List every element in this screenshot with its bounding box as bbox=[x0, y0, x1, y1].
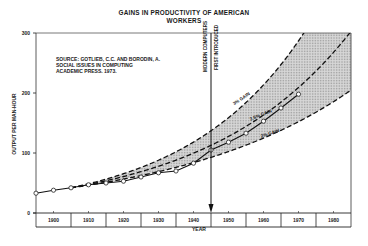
arrow-label-line-2: FIRST INTRODUCED bbox=[214, 25, 219, 70]
computers-arrow bbox=[209, 33, 214, 213]
svg-text:1960: 1960 bbox=[258, 217, 269, 223]
source-line-3: ACADEMIC PRESS. 1973. bbox=[56, 68, 160, 74]
svg-text:1970: 1970 bbox=[293, 217, 304, 223]
svg-text:0: 0 bbox=[27, 210, 30, 216]
chart-plot: 0100200300190019101920193019401950196019… bbox=[0, 0, 368, 246]
svg-text:200: 200 bbox=[22, 90, 31, 96]
x-axis-label: YEAR bbox=[192, 226, 206, 232]
arrow-label-line-1: MODERN COMPUTERS bbox=[203, 21, 208, 72]
svg-text:1940: 1940 bbox=[188, 217, 199, 223]
svg-text:1950: 1950 bbox=[223, 217, 234, 223]
svg-text:1920: 1920 bbox=[118, 217, 129, 223]
svg-text:100: 100 bbox=[22, 150, 31, 156]
y-axis-label: OUTPUT PER MAN-HOUR bbox=[11, 93, 17, 154]
svg-text:1910: 1910 bbox=[83, 217, 94, 223]
svg-text:300: 300 bbox=[22, 30, 31, 36]
svg-text:1980: 1980 bbox=[328, 217, 339, 223]
svg-text:1900: 1900 bbox=[48, 217, 59, 223]
source-note: SOURCE: GOTLIEB, C.C. AND BORODIN, A. SO… bbox=[56, 56, 160, 75]
svg-text:1930: 1930 bbox=[153, 217, 164, 223]
